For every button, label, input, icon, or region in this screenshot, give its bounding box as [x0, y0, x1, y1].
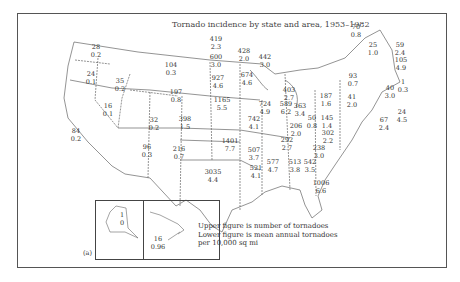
legend-line-1: Upper figure is number of tornadoes — [198, 222, 338, 231]
legend: Upper figure is number of tornadoes Lowe… — [198, 222, 338, 248]
legend-line-2: Lower figure is mean annual tornadoes — [198, 231, 338, 240]
state-label-hi: 160.96 — [151, 236, 165, 251]
panel-label: (a) — [83, 249, 92, 257]
legend-line-3: per 10,000 sq mi — [198, 239, 338, 248]
state-label-ak: 10 — [120, 212, 124, 227]
hawaii-outline — [150, 212, 184, 234]
